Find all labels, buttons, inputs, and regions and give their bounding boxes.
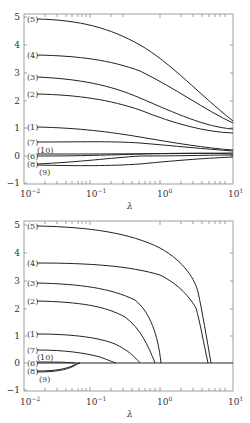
top-curve-2 <box>37 94 233 133</box>
top-label-4: (4) <box>27 51 38 60</box>
bottom-y-ticks <box>24 225 233 390</box>
top-ytick-1: 1 <box>14 123 20 133</box>
top-label-9: (9) <box>39 168 50 177</box>
bottom-xlabel: λ <box>126 409 133 419</box>
bottom-plot-frame <box>24 221 233 391</box>
top-ytick-2: 2 <box>14 96 20 106</box>
top-label-8: (8) <box>27 160 38 169</box>
bottom-label-5: (5) <box>27 222 38 231</box>
top-curve-4 <box>37 55 233 123</box>
bottom-curve-3 <box>37 283 161 363</box>
bottom-ytick-0: 0 <box>14 358 20 368</box>
bottom-ytick-4: 4 <box>14 248 20 258</box>
top-label-1: (1) <box>27 123 38 132</box>
top-label-5: (5) <box>27 15 38 24</box>
bottom-label-2: (2) <box>27 297 38 306</box>
bottom-label-10: (10) <box>37 353 53 362</box>
bottom-label-9: (9) <box>39 375 50 384</box>
bottom-ytick-3: 3 <box>14 276 20 286</box>
bottom-label-8: (8) <box>27 367 38 376</box>
bottom-curve-5 <box>37 226 211 363</box>
top-xlabel: λ <box>126 201 133 211</box>
top-xtick-1e-2: 10−2 <box>20 187 40 199</box>
bottom-curve-8 <box>37 363 80 371</box>
top-xtick-1e0: 100 <box>157 187 172 199</box>
bottom-xtick-1e1: 101 <box>228 395 243 407</box>
top-ytick-3: 3 <box>14 68 20 78</box>
bottom-xtick-1e0: 100 <box>157 395 172 407</box>
bottom-xtick-1e-1: 10−1 <box>86 395 106 407</box>
top-ytick-neg1: −1 <box>7 178 20 188</box>
bottom-ytick-5: 5 <box>14 220 20 230</box>
bottom-ytick-neg1: −1 <box>7 385 20 395</box>
top-ytick-5: 5 <box>14 12 20 22</box>
bottom-chart: 5 4 3 2 1 0 −1 10−2 10−1 100 101 λ (5) (… <box>7 220 244 419</box>
top-ytick-4: 4 <box>14 40 20 50</box>
top-label-2: (2) <box>27 90 38 99</box>
bottom-curves <box>37 226 233 372</box>
top-curve-5 <box>37 19 233 121</box>
bottom-ytick-2: 2 <box>14 304 20 314</box>
bottom-ytick-1: 1 <box>14 331 20 341</box>
bottom-label-4: (4) <box>27 259 38 268</box>
top-xtick-1e-1: 10−1 <box>86 187 106 199</box>
top-ytick-0: 0 <box>14 151 20 161</box>
top-label-3: (3) <box>27 73 38 82</box>
top-curves <box>37 19 233 166</box>
top-curve-8 <box>37 155 233 164</box>
top-chart: 5 4 3 2 1 0 −1 10−2 10−1 100 101 λ (5) (… <box>7 12 244 211</box>
top-label-10: (10) <box>37 146 53 155</box>
bottom-xtick-1e-2: 10−2 <box>20 395 40 407</box>
chart-figure: 5 4 3 2 1 0 −1 10−2 10−1 100 101 λ (5) (… <box>0 0 250 423</box>
top-x-ticks <box>45 14 225 184</box>
bottom-curve-2 <box>37 301 155 363</box>
top-curve-1 <box>37 127 233 150</box>
top-y-ticks <box>24 17 233 183</box>
top-curve-9 <box>37 157 233 166</box>
top-curve-3 <box>37 77 233 129</box>
bottom-label-3: (3) <box>27 279 38 288</box>
bottom-label-1: (1) <box>27 330 38 339</box>
top-xtick-1e1: 101 <box>228 187 243 199</box>
